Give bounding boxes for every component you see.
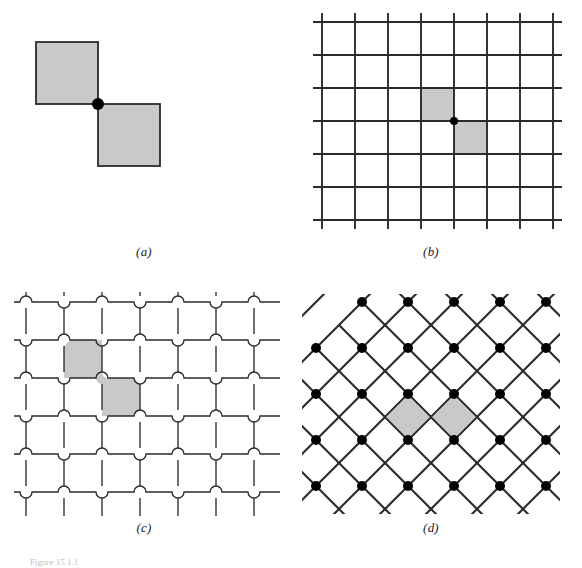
vertex-dot [403,343,413,353]
lattice-line-down-left [408,371,562,516]
vertex-dot [449,343,459,353]
vertex-dot [403,481,413,491]
panel-a-graphic [18,8,270,238]
vertex-dot [357,389,367,399]
vertex-dot [449,389,459,399]
shaded-diamond-outline-2 [431,394,477,440]
vertex-dot [92,98,104,110]
panel-a-label: (a) [18,244,270,260]
vertex-dot [403,389,413,399]
jogged-line-horizontal [14,372,280,384]
figure-caption: Figure 15.1.1 [30,556,78,568]
panel-c-label: (c) [8,520,280,536]
vertex-dot [541,297,551,307]
shaded-diamond-outline-1 [385,394,431,440]
shaded-square-2 [98,104,160,166]
vertex-dot [311,389,321,399]
panel-d: (d) [300,292,562,534]
panel-b: (b) [300,8,562,258]
vertex-dot [449,435,459,445]
diagonal-lattice-lines [300,292,562,516]
figure-root: (a) (b) (c) (d) Figure 15.1.1 [0,0,582,568]
panel-c-graphic [8,292,280,516]
vertex-dot [311,343,321,353]
jogged-line-horizontal [14,296,280,308]
panel-c: (c) [8,292,280,534]
vertex-dot [449,297,459,307]
vertex-dot [541,389,551,399]
panel-d-graphic [300,292,562,516]
vertex-dot [495,343,505,353]
jogged-line-horizontal [14,410,280,422]
vertex-dot [357,435,367,445]
vertex-dot [449,481,459,491]
vertex-dot [311,435,321,445]
vertex-dot [357,297,367,307]
lattice-line-down-right [300,509,408,516]
vertex-dot [495,481,505,491]
vertex-dot [541,435,551,445]
vertex-dot [450,117,458,125]
vertex-dot [541,481,551,491]
jogged-line-horizontal [14,448,280,460]
jogged-line-horizontal [14,334,280,346]
panel-a: (a) [18,8,270,258]
vertex-dot [357,343,367,353]
lattice-line-down-left [300,292,385,348]
panel-b-label: (b) [300,244,562,260]
vertex-dot [495,435,505,445]
shaded-square-1 [36,42,98,104]
vertex-dot [357,481,367,491]
vertex-dot [495,389,505,399]
panel-d-label: (d) [300,520,562,536]
vertex-dot [495,297,505,307]
vertex-dot [541,343,551,353]
vertex-dot [403,435,413,445]
vertex-dot [311,481,321,491]
shaded-cell-1 [421,88,454,121]
shaded-cell-2 [454,121,487,154]
jogged-line-horizontal [14,486,280,498]
lattice-line-down-left [300,292,339,302]
panel-b-graphic [300,8,562,238]
vertex-dot [403,297,413,307]
